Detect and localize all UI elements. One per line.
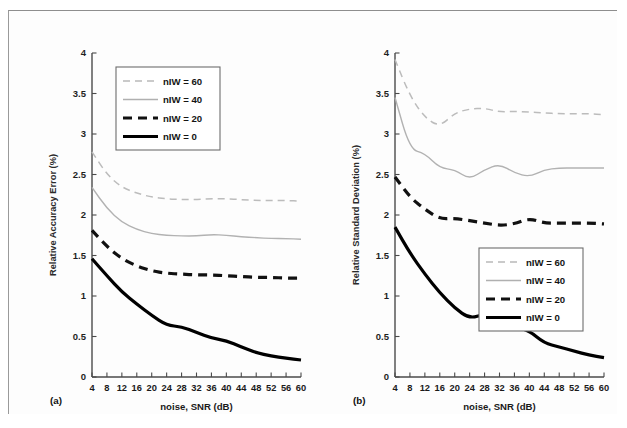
series-line-3 bbox=[395, 177, 604, 225]
y-tick-label: 1 bbox=[81, 290, 87, 301]
chart-svg-a: 00.511.522.533.5448121620242832364044485… bbox=[11, 11, 316, 415]
series-line-3 bbox=[92, 230, 301, 278]
legend-label-1: nIW = 60 bbox=[163, 76, 202, 87]
chart-panel-a: 00.511.522.533.5448121620242832364044485… bbox=[11, 11, 316, 415]
chart-legend: nIW = 60nIW = 40nIW = 20nIW = 0 bbox=[116, 67, 220, 150]
x-tick-label: 12 bbox=[117, 383, 127, 393]
x-tick-label: 52 bbox=[569, 383, 579, 393]
x-tick-label: 44 bbox=[236, 383, 247, 393]
y-tick-label: 4 bbox=[81, 47, 87, 58]
series-line-1 bbox=[395, 59, 604, 124]
y-tick-label: 3.5 bbox=[73, 88, 87, 99]
series-line-4 bbox=[92, 259, 301, 360]
panel-caption: (a) bbox=[50, 395, 62, 406]
panel-caption: (b) bbox=[353, 395, 366, 406]
y-tick-label: 4 bbox=[384, 47, 390, 58]
y-tick-label: 2 bbox=[384, 209, 389, 220]
plot-area-a: 00.511.522.533.5448121620242832364044485… bbox=[48, 47, 306, 412]
x-tick-label: 32 bbox=[494, 383, 504, 393]
y-tick-label: 2.5 bbox=[376, 169, 390, 180]
x-tick-label: 60 bbox=[599, 383, 609, 393]
legend-label-1: nIW = 60 bbox=[526, 257, 565, 268]
x-tick-label: 36 bbox=[206, 383, 216, 393]
x-tick-label: 28 bbox=[479, 383, 489, 393]
legend-label-4: nIW = 0 bbox=[163, 131, 197, 142]
series-line-1 bbox=[92, 152, 301, 201]
y-tick-label: 1.5 bbox=[73, 250, 87, 261]
chart-legend: nIW = 60nIW = 40nIW = 20nIW = 0 bbox=[479, 248, 583, 331]
x-tick-label: 40 bbox=[221, 383, 231, 393]
y-tick-label: 0.5 bbox=[73, 331, 87, 342]
series-line-2 bbox=[395, 98, 604, 177]
legend-label-2: nIW = 40 bbox=[163, 94, 202, 105]
x-tick-label: 8 bbox=[407, 383, 412, 393]
y-tick-label: 3.5 bbox=[376, 88, 390, 99]
x-tick-label: 56 bbox=[584, 383, 594, 393]
x-tick-label: 32 bbox=[191, 383, 201, 393]
x-tick-label: 12 bbox=[420, 383, 430, 393]
legend-label-4: nIW = 0 bbox=[526, 312, 560, 323]
x-tick-label: 36 bbox=[509, 383, 519, 393]
x-tick-label: 4 bbox=[89, 383, 95, 393]
y-axis-title: Relative Accuracy Error (%) bbox=[48, 154, 58, 276]
x-tick-label: 16 bbox=[132, 383, 142, 393]
y-tick-label: 1 bbox=[384, 290, 390, 301]
x-tick-label: 48 bbox=[554, 383, 564, 393]
x-tick-label: 20 bbox=[147, 383, 157, 393]
y-tick-label: 0.5 bbox=[376, 331, 390, 342]
x-tick-label: 56 bbox=[281, 383, 291, 393]
x-tick-label: 44 bbox=[539, 383, 550, 393]
y-tick-label: 3 bbox=[81, 128, 86, 139]
y-tick-label: 0 bbox=[384, 371, 389, 382]
x-tick-label: 24 bbox=[161, 383, 172, 393]
y-tick-label: 2.5 bbox=[73, 169, 87, 180]
legend-label-2: nIW = 40 bbox=[526, 275, 565, 286]
chart-svg-b: 00.511.522.533.5448121620242832364044485… bbox=[314, 11, 619, 415]
x-axis-title: noise, SNR (dB) bbox=[463, 401, 536, 412]
x-tick-label: 4 bbox=[392, 383, 398, 393]
x-tick-label: 28 bbox=[176, 383, 186, 393]
plot-area-b: 00.511.522.533.5448121620242832364044485… bbox=[351, 47, 609, 412]
legend-label-3: nIW = 20 bbox=[163, 113, 202, 124]
series-line-2 bbox=[92, 187, 301, 239]
y-axis-title: Relative Standard Deviation (%) bbox=[351, 145, 361, 285]
x-axis-title: noise, SNR (dB) bbox=[160, 401, 233, 412]
y-tick-label: 0 bbox=[81, 371, 86, 382]
x-tick-label: 52 bbox=[266, 383, 276, 393]
x-tick-label: 24 bbox=[464, 383, 475, 393]
chart-panel-b: 00.511.522.533.5448121620242832364044485… bbox=[314, 11, 619, 415]
legend-label-3: nIW = 20 bbox=[526, 294, 565, 305]
y-tick-label: 3 bbox=[384, 128, 389, 139]
y-tick-label: 1.5 bbox=[376, 250, 390, 261]
x-tick-label: 20 bbox=[450, 383, 460, 393]
x-tick-label: 8 bbox=[104, 383, 109, 393]
x-tick-label: 40 bbox=[524, 383, 534, 393]
x-tick-label: 48 bbox=[251, 383, 261, 393]
x-tick-label: 16 bbox=[435, 383, 445, 393]
figure-frame: 00.511.522.533.5448121620242832364044485… bbox=[8, 10, 617, 414]
y-tick-label: 2 bbox=[81, 209, 86, 220]
x-tick-label: 60 bbox=[296, 383, 306, 393]
